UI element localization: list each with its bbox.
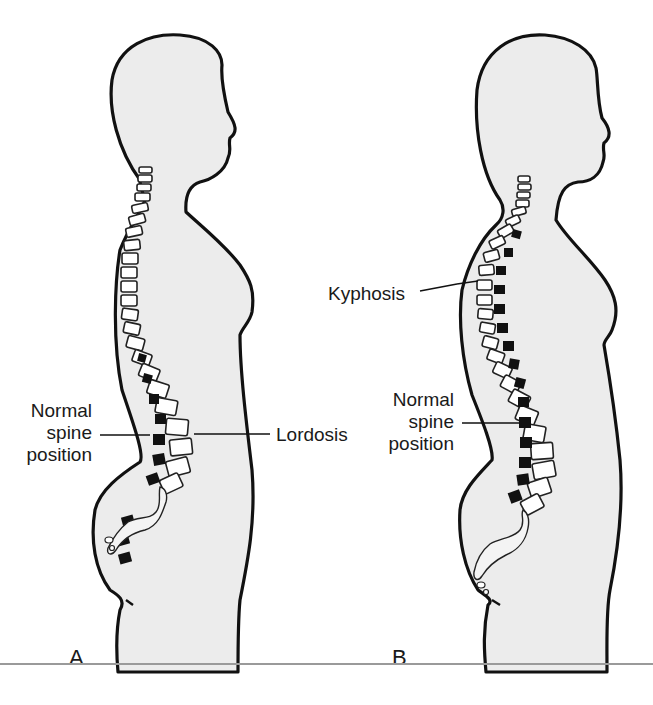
label-line: spine bbox=[8, 422, 92, 444]
panel-letter-a: A bbox=[69, 645, 84, 671]
figure-a-body bbox=[93, 35, 253, 672]
label-line: spine bbox=[370, 411, 454, 433]
label-line: position bbox=[370, 433, 454, 455]
figure-b-coccyx bbox=[477, 582, 485, 588]
label-line: position bbox=[8, 444, 92, 466]
label-line: Normal bbox=[370, 389, 454, 411]
bottom-divider bbox=[0, 663, 653, 665]
figure-a-normal-spine-label: Normal spine position bbox=[8, 400, 92, 466]
figure-a-coccyx bbox=[105, 537, 113, 543]
label-line: Normal bbox=[8, 400, 92, 422]
figure-b-body bbox=[460, 35, 621, 672]
figure-a-lordosis-label: Lordosis bbox=[276, 424, 348, 446]
figure-b-kyphosis-leader bbox=[420, 284, 457, 291]
figure-b-normal-spine-label: Normal spine position bbox=[370, 389, 454, 455]
figure-b-kyphosis-label: Kyphosis bbox=[328, 283, 405, 305]
panel-letter-b: B bbox=[392, 645, 407, 671]
spine-posture-diagram: Normal spine position Lordosis Kyphosis … bbox=[0, 0, 653, 705]
diagram-svg bbox=[0, 0, 653, 705]
